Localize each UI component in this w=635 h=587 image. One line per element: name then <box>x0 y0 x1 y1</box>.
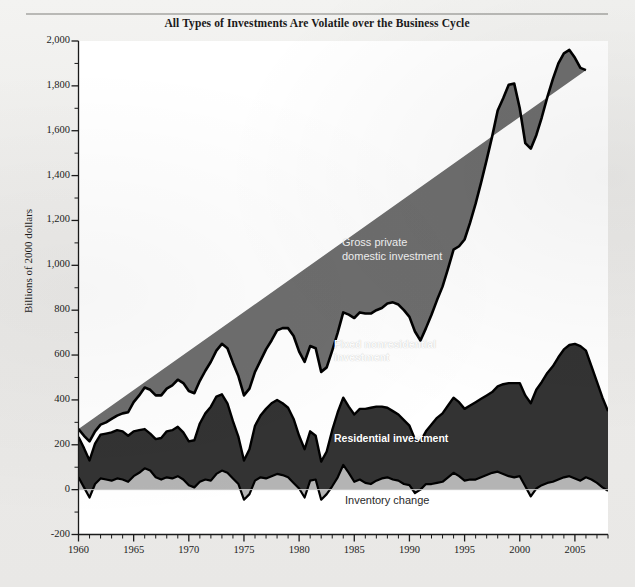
y-axis-ticks <box>72 41 79 535</box>
y-tick-label: 600 <box>8 348 70 359</box>
y-tick-label: 1,600 <box>8 124 70 135</box>
x-tick-label: 2000 <box>497 544 543 555</box>
x-tick-label: 1985 <box>331 544 377 555</box>
x-tick-label: 1995 <box>442 544 488 555</box>
y-tick-label: 1,800 <box>8 79 70 90</box>
series-label-gross-private-domestic-investment: Gross private domestic investment <box>342 236 442 264</box>
y-tick-label: 400 <box>8 393 70 404</box>
x-tick-label: 2005 <box>552 544 598 555</box>
y-tick-label: 1,000 <box>8 258 70 269</box>
x-tick-label: 1980 <box>276 544 322 555</box>
x-tick-label: 1975 <box>221 544 267 555</box>
figure-page: All Types of Investments Are Volatile ov… <box>0 0 635 587</box>
y-tick-label: 200 <box>8 438 70 449</box>
x-tick-label: 1990 <box>386 544 432 555</box>
x-tick-label: 1960 <box>56 544 102 555</box>
chart-svg <box>0 0 635 587</box>
x-axis-ticks <box>79 535 609 542</box>
series-label-inventory-change: Inventory change <box>345 494 429 508</box>
y-tick-label: -200 <box>8 528 70 539</box>
y-tick-label: 800 <box>8 303 70 314</box>
x-tick-label: 1970 <box>166 544 212 555</box>
series-label-fixed-nonresidential-investment: Fixed nonresidential investment <box>334 338 436 364</box>
y-tick-label: 2,000 <box>8 34 70 45</box>
y-tick-label: 0 <box>8 483 70 494</box>
y-tick-label: 1,400 <box>8 169 70 180</box>
y-tick-label: 1,200 <box>8 213 70 224</box>
y-axis-title: Billions of 2000 dollars <box>22 181 34 341</box>
series-label-residential-investment: Residential investment <box>334 432 448 445</box>
x-tick-label: 1965 <box>111 544 157 555</box>
